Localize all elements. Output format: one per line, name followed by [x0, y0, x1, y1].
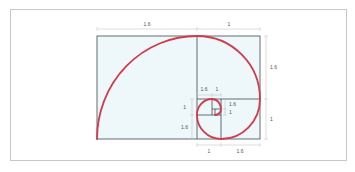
label-top-left: 1.6 — [144, 21, 151, 27]
golden-rectangles — [97, 36, 260, 139]
label-right-upper: 1.6 — [270, 64, 277, 70]
label-inner-right-upper: 1.6 — [229, 101, 236, 107]
label-inner-left-upper: 1 — [183, 104, 186, 110]
label-inner-right-lower: 1 — [229, 109, 232, 115]
label-right-lower: 1 — [270, 116, 273, 122]
label-bottom-right: 1.6 — [237, 148, 244, 154]
label-inner-left-lower: 1.6 — [181, 124, 188, 130]
golden-spiral-diagram: 1.6 1 1.6 1 1 1.6 1.6 1 1 1.6 1.6 1 — [0, 0, 355, 172]
label-inner-top-left: 1.6 — [201, 86, 208, 92]
label-top-right: 1 — [228, 21, 231, 27]
label-inner-top-right: 1 — [216, 86, 219, 92]
label-bottom-left: 1 — [208, 148, 211, 154]
main-rectangle — [97, 36, 260, 139]
